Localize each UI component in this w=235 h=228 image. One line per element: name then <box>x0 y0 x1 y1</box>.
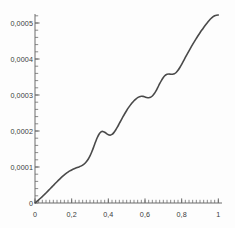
x-tick-label: 0,4 <box>103 210 113 219</box>
data-curve <box>35 15 218 203</box>
x-tick-label: 1 <box>216 210 220 219</box>
y-tick-label: 0,0004 <box>10 55 33 64</box>
chart-container: 0,00010,00020,00030,00040,000500,20,40,6… <box>0 0 235 228</box>
plot-area <box>0 0 235 228</box>
x-tick-label: 0 <box>33 210 37 219</box>
y-tick-label: 0,0005 <box>10 19 33 28</box>
y-tick-label: 0,0001 <box>10 163 33 172</box>
x-tick-label: 0,2 <box>67 210 77 219</box>
x-tick-label: 0,8 <box>177 210 187 219</box>
y-tick-label: 0,0002 <box>10 127 33 136</box>
y-tick-label: 0,0003 <box>10 91 33 100</box>
origin-label: 0 <box>29 199 33 208</box>
x-tick-label: 0,6 <box>140 210 150 219</box>
